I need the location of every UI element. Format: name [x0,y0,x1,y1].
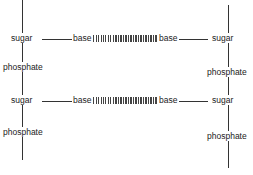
right-base-2: base [158,95,178,105]
right-phosphate-2: phosphate [206,131,248,141]
left-sugar-2: sugar [10,95,33,105]
hydrogen-bonds-2 [93,97,158,104]
hydrogen-bonds-1 [93,35,158,42]
right-base-sugar-link-1 [179,39,208,40]
right-phosphate-1: phosphate [206,67,248,77]
left-sugar-1: sugar [10,33,33,43]
dna-diagram: sugar base base sugar phosphate phosphat… [0,0,253,175]
right-base-sugar-link-2 [179,101,208,102]
right-base-1: base [158,33,178,43]
left-base-1: base [72,33,92,43]
right-sugar-1: sugar [211,33,234,43]
left-base-2: base [72,95,92,105]
right-backbone-line [228,5,229,168]
right-sugar-2: sugar [211,95,234,105]
left-sugar-base-link-1 [42,39,72,40]
left-sugar-base-link-2 [42,101,72,102]
left-phosphate-1: phosphate [2,62,44,72]
left-phosphate-2: phosphate [2,127,44,137]
